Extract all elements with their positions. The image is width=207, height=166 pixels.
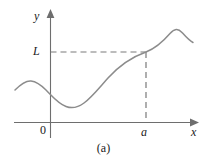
y-axis-label: y (34, 10, 39, 22)
x-axis-label: x (191, 126, 196, 138)
abscissa-label: a (141, 126, 147, 138)
origin-label: 0 (40, 124, 46, 136)
figure-container: y x L a 0 (a) (0, 0, 207, 166)
function-curve (15, 29, 193, 107)
limit-value-label: L (33, 45, 40, 57)
y-axis (47, 9, 55, 138)
y-axis-arrowhead (47, 9, 55, 18)
figure-caption: (a) (0, 142, 207, 154)
